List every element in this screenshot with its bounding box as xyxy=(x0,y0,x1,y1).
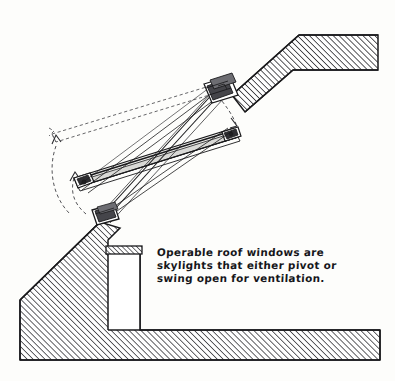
head-jamb-block xyxy=(204,73,238,103)
sill-block xyxy=(92,202,119,225)
architectural-section-drawing xyxy=(0,0,395,381)
pivot-point-right xyxy=(229,132,233,136)
sash-top-rail xyxy=(75,130,235,180)
upper-roof-body xyxy=(232,35,378,112)
caption-block: Operable roof windows are skylights that… xyxy=(157,246,347,286)
sash-right-return xyxy=(238,137,240,141)
caption-line-3: swing open for ventilation. xyxy=(157,272,348,285)
light-shaft-void xyxy=(108,254,140,330)
upper-roof-section xyxy=(232,35,378,112)
light-shaft xyxy=(106,246,142,330)
lower-roof-body xyxy=(20,222,380,360)
caption-line-2: skylights that either pivot or xyxy=(157,259,348,272)
roof-window-figure: Operable roof windows are skylights that… xyxy=(0,0,395,381)
light-shaft-header xyxy=(106,246,142,254)
ghost-sash-tick xyxy=(49,128,54,136)
swing-arc-group xyxy=(52,96,236,214)
sash-glazing-band xyxy=(76,132,238,187)
linkage-sill-to-sash-right xyxy=(104,131,232,220)
swing-arrowheads xyxy=(52,118,237,181)
pivot-point-left xyxy=(82,180,86,184)
lower-roof-section xyxy=(20,222,380,360)
skylight-sash-open xyxy=(74,128,240,191)
caption-line-1: Operable roof windows are xyxy=(157,246,348,259)
skylight-sash-closed-ghost xyxy=(49,85,216,142)
swing-arc-outer xyxy=(52,146,70,214)
